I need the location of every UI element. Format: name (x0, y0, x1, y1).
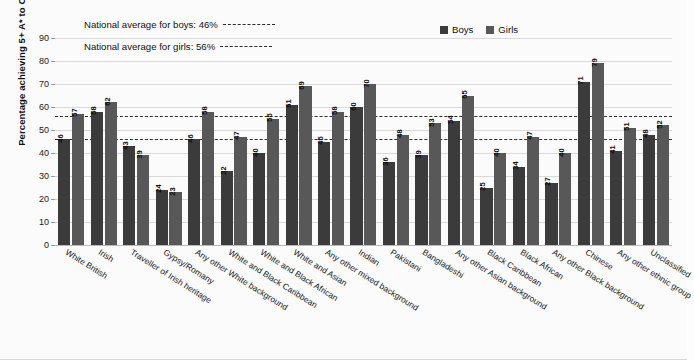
annotation-boys-average-dash (223, 24, 275, 25)
bar-girls[interactable]: 62 (105, 102, 117, 245)
bar-value-label: 71 (576, 77, 584, 85)
bar-boys[interactable]: 41 (610, 151, 622, 245)
bar-girls[interactable]: 55 (267, 119, 279, 246)
bar-value-label: 61 (284, 100, 292, 108)
bar-group: 5465 (445, 38, 477, 245)
bar-boys[interactable]: 46 (188, 139, 200, 245)
bar-value-label: 58 (89, 106, 97, 114)
y-tick-label-70: 70 (39, 79, 49, 89)
bar-value-label: 55 (265, 113, 273, 121)
bar-value-label: 45 (317, 136, 325, 144)
legend: Boys Girls (440, 24, 518, 35)
y-tick-label-20: 20 (39, 194, 49, 204)
bar-girls[interactable]: 40 (559, 153, 571, 245)
bar-value-label: 57 (71, 109, 79, 117)
bar-value-label: 70 (363, 79, 371, 87)
bar-value-label: 25 (479, 182, 487, 190)
bar-series-group: 4657586243392423465832474055616945586070… (55, 38, 672, 245)
bar-girls[interactable]: 39 (137, 155, 149, 245)
bar-group: 3648 (380, 38, 412, 245)
x-axis-label: Indian (356, 247, 381, 268)
y-tick-label-60: 60 (39, 102, 49, 112)
bar-girls[interactable]: 47 (234, 137, 246, 245)
bar-boys[interactable]: 39 (415, 155, 427, 245)
bar-group: 7179 (575, 38, 607, 245)
bar-group: 4657 (55, 38, 87, 245)
bar-boys[interactable]: 25 (480, 188, 492, 246)
annotation-girls-average-text: National average for girls: 56% (84, 41, 215, 52)
bar-group: 2740 (542, 38, 574, 245)
bar-group: 6070 (347, 38, 379, 245)
y-tick-label-10: 10 (39, 217, 49, 227)
bar-group: 4339 (120, 38, 152, 245)
bar-girls[interactable]: 47 (527, 137, 539, 245)
bar-value-label: 40 (493, 148, 501, 156)
bar-group: 4852 (640, 38, 672, 245)
annotation-girls-average: National average for girls: 56% (84, 41, 272, 52)
bar-value-label: 46 (57, 134, 65, 142)
bar-boys[interactable]: 61 (286, 105, 298, 245)
bar-girls[interactable]: 23 (169, 192, 181, 245)
bar-group: 4558 (315, 38, 347, 245)
bar-value-label: 40 (252, 148, 260, 156)
bar-value-label: 58 (201, 106, 209, 114)
bar-value-label: 39 (414, 150, 422, 158)
bar-value-label: 60 (349, 102, 357, 110)
bar-group: 6169 (282, 38, 314, 245)
bar-girls[interactable]: 79 (592, 63, 604, 245)
bar-boys[interactable]: 45 (318, 142, 330, 246)
bar-girls[interactable]: 40 (494, 153, 506, 245)
bar-girls[interactable]: 53 (429, 123, 441, 245)
bar-girls[interactable]: 69 (299, 86, 311, 245)
bar-boys[interactable]: 24 (156, 190, 168, 245)
y-tick-label-90: 90 (39, 33, 49, 43)
bar-girls[interactable]: 65 (462, 96, 474, 246)
bar-boys[interactable]: 58 (91, 112, 103, 245)
bar-value-label: 46 (187, 134, 195, 142)
bar-value-label: 53 (428, 118, 436, 126)
bar-group: 3953 (412, 38, 444, 245)
bar-boys[interactable]: 32 (221, 171, 233, 245)
y-tick-label-50: 50 (39, 125, 49, 135)
x-axis-label: Irish (96, 247, 115, 264)
bar-boys[interactable]: 43 (123, 146, 135, 245)
bar-value-label: 39 (136, 150, 144, 158)
bar-value-label: 24 (154, 185, 162, 193)
legend-item-girls: Girls (486, 24, 518, 35)
bar-boys[interactable]: 71 (578, 82, 590, 245)
bar-value-label: 32 (219, 166, 227, 174)
bar-boys[interactable]: 46 (58, 139, 70, 245)
bar-value-label: 27 (544, 178, 552, 186)
bar-value-label: 48 (641, 129, 649, 137)
y-axis-title: Percentage achieving 5+ A* to C GCSEs (16, 0, 34, 169)
x-axis-labels: White BritishIrishTraveller of Irish her… (55, 247, 672, 357)
bar-boys[interactable]: 60 (350, 107, 362, 245)
bar-value-label: 41 (609, 146, 617, 154)
plot-area: 0102030405060708090 46575862433924234658… (55, 38, 672, 245)
bar-boys[interactable]: 34 (513, 167, 525, 245)
bar-girls[interactable]: 58 (332, 112, 344, 245)
bar-boys[interactable]: 54 (448, 121, 460, 245)
bar-girls[interactable]: 57 (72, 114, 84, 245)
bar-group: 4151 (607, 38, 639, 245)
annotation-boys-average-text: National average for boys: 46% (84, 19, 218, 30)
bar-value-label: 47 (525, 132, 533, 140)
bar-girls[interactable]: 70 (364, 84, 376, 245)
bar-boys[interactable]: 40 (253, 153, 265, 245)
bar-group: 3447 (510, 38, 542, 245)
bar-group: 2423 (152, 38, 184, 245)
bar-value-label: 36 (382, 157, 390, 165)
bar-girls[interactable]: 58 (202, 112, 214, 245)
bar-group: 4658 (185, 38, 217, 245)
bar-girls[interactable]: 52 (657, 125, 669, 245)
legend-swatch-girls-icon (486, 26, 494, 34)
bar-girls[interactable]: 48 (397, 135, 409, 245)
bar-value-label: 54 (447, 116, 455, 124)
bar-boys[interactable]: 36 (383, 162, 395, 245)
bar-girls[interactable]: 51 (624, 128, 636, 245)
bar-value-label: 52 (655, 120, 663, 128)
bar-boys[interactable]: 48 (643, 135, 655, 245)
bar-value-label: 34 (511, 162, 519, 170)
y-tick-label-0: 0 (44, 240, 49, 250)
bar-boys[interactable]: 27 (545, 183, 557, 245)
